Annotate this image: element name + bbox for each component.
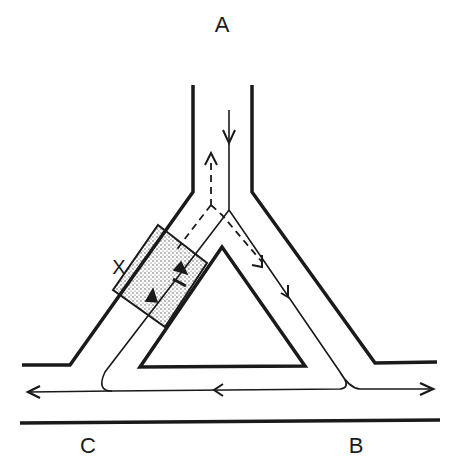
bottom-wall bbox=[20, 420, 440, 423]
label-c: C bbox=[80, 433, 96, 459]
label-x: X bbox=[112, 256, 125, 279]
flow-line-to-c bbox=[30, 391, 112, 392]
label-a: A bbox=[215, 12, 230, 38]
channel-junction-diagram bbox=[0, 0, 454, 468]
outer-wall-right bbox=[252, 85, 437, 363]
label-b: B bbox=[349, 433, 364, 459]
